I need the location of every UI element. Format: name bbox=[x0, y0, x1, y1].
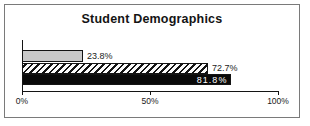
bar-gray bbox=[22, 50, 83, 62]
bar-value-label: 23.8% bbox=[87, 50, 113, 62]
x-axis-tick bbox=[150, 92, 151, 95]
chart-frame: Student Demographics 23.8%72.7%81.8% 0%5… bbox=[4, 4, 300, 118]
x-axis-tick bbox=[22, 92, 23, 95]
x-axis-tick-label: 50% bbox=[141, 96, 158, 106]
bar-row: 23.8% bbox=[22, 50, 278, 62]
bar-row: 72.7% bbox=[22, 63, 278, 74]
x-axis-tick-label: 0% bbox=[16, 96, 28, 106]
bar-row: 81.8% bbox=[22, 74, 278, 85]
x-axis-tick bbox=[278, 92, 279, 95]
chart-title: Student Demographics bbox=[5, 12, 299, 26]
bar-value-label: 81.8% bbox=[197, 75, 228, 86]
plot-area: 23.8%72.7%81.8% bbox=[22, 40, 278, 92]
bar-black: 81.8% bbox=[22, 74, 231, 85]
x-axis-tick-labels: 0%50%100% bbox=[22, 96, 278, 108]
x-axis-tick-label: 100% bbox=[267, 96, 289, 106]
bar-value-label: 72.7% bbox=[212, 63, 238, 74]
bar-hatched bbox=[22, 63, 208, 74]
